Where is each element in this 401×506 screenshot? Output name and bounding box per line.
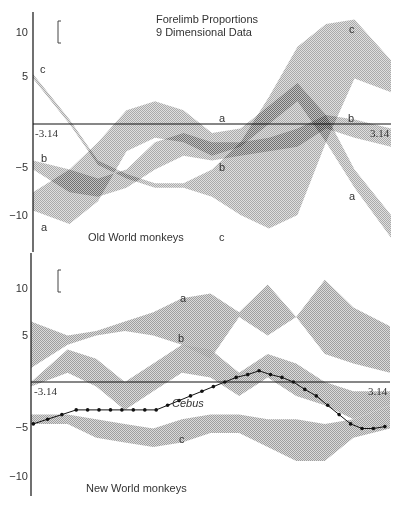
cebus-point — [212, 385, 216, 389]
title-line-2: 9 Dimensional Data — [156, 26, 258, 39]
bottom-ytick-m5: −5 — [2, 422, 28, 433]
new-world-panel — [31, 280, 390, 461]
band-c — [31, 405, 390, 461]
chart-title: Forelimb Proportions 9 Dimensional Data — [156, 13, 258, 39]
top-label-a-mid: a — [219, 113, 225, 124]
bottom-xmin-label: -3.14 — [34, 386, 57, 397]
cebus-label: Cebus — [172, 398, 204, 409]
cebus-point — [223, 380, 227, 384]
cebus-point — [166, 404, 170, 408]
cebus-point — [269, 373, 273, 377]
top-label-b-right: b — [348, 113, 354, 124]
top-label-c-right: c — [349, 24, 355, 35]
cebus-point — [315, 394, 319, 398]
cebus-point — [132, 408, 136, 412]
cebus-point — [86, 408, 90, 412]
top-label-b-left: b — [41, 153, 47, 164]
title-line-1: Forelimb Proportions — [156, 13, 258, 26]
bottom-panel-label: New World monkeys — [86, 483, 187, 494]
cebus-point — [74, 408, 78, 412]
bottom-label-b: b — [178, 333, 184, 344]
cebus-point — [143, 408, 147, 412]
top-label-c-bottom: c — [219, 232, 225, 243]
cebus-point — [234, 376, 238, 380]
cebus-point — [154, 408, 158, 412]
top-label-b-mid: b — [219, 162, 225, 173]
cebus-point — [60, 413, 64, 417]
top-xmin-label: -3.14 — [35, 128, 58, 139]
cebus-point — [109, 408, 113, 412]
bottom-ytick-10: 10 — [2, 283, 28, 294]
top-scale-bar — [58, 21, 61, 43]
chart-figure — [0, 0, 401, 506]
cebus-point — [200, 390, 204, 394]
cebus-point — [349, 422, 353, 426]
bottom-label-a: a — [180, 293, 186, 304]
bottom-label-c: c — [179, 434, 185, 445]
cebus-point — [337, 413, 341, 417]
cebus-point — [303, 388, 307, 392]
top-label-a-left: a — [41, 222, 47, 233]
cebus-point — [46, 417, 50, 421]
top-panel-label: Old World monkeys — [88, 232, 184, 243]
cebus-point — [292, 380, 296, 384]
cebus-point — [280, 376, 284, 380]
bottom-xmax-label: 3.14 — [368, 386, 387, 397]
cebus-point — [372, 427, 376, 431]
old-world-panel — [33, 19, 391, 237]
top-label-c-left: c — [40, 64, 46, 75]
top-ytick-m10: −10 — [2, 210, 28, 221]
top-ytick-m5: −5 — [2, 162, 28, 173]
top-xmax-label: 3.14 — [370, 128, 389, 139]
cebus-point — [97, 408, 101, 412]
cebus-point — [383, 425, 387, 429]
bottom-ytick-5: 5 — [2, 330, 28, 341]
bottom-ytick-m10: −10 — [2, 471, 28, 482]
cebus-point — [360, 427, 364, 431]
cebus-point — [326, 404, 330, 408]
cebus-point — [120, 408, 124, 412]
bottom-scale-bar — [58, 270, 61, 292]
cebus-point — [257, 369, 261, 373]
cebus-point — [32, 422, 36, 426]
top-ytick-10: 10 — [2, 27, 28, 38]
cebus-point — [246, 373, 250, 377]
top-label-a-right: a — [349, 191, 355, 202]
top-ytick-5: 5 — [2, 71, 28, 82]
